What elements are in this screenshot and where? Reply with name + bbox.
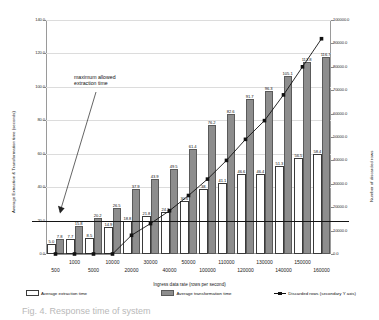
y-axis-tick-label-right: 100000.0: [333, 18, 361, 22]
y-axis-tick-label-right: 10000.0: [333, 229, 361, 233]
extract-swatch-icon: [26, 290, 39, 296]
y-axis-tick-mark-right: [331, 90, 334, 91]
x-axis-tick-label: 100000: [199, 268, 216, 273]
line-marker[interactable]: [92, 252, 96, 256]
y-axis-tick-mark-right: [331, 254, 334, 255]
line-marker[interactable]: [244, 138, 248, 142]
y-axis-tick-mark-right: [331, 67, 334, 68]
y-axis-tick-mark-right: [331, 231, 334, 232]
y-axis-tick-mark-left: [43, 254, 46, 255]
y-axis-tick-label-right: 70000.0: [333, 88, 361, 92]
y-axis-tick-label-left: 40.0: [21, 185, 45, 189]
y-axis-tick-label-right: 40000.0: [333, 158, 361, 162]
y-axis-tick-mark-right: [331, 114, 334, 115]
transform-swatch-icon: [161, 290, 174, 296]
legend-item-transformation[interactable]: Average transformation time: [161, 290, 274, 296]
y-axis-tick-mark-right: [331, 207, 334, 208]
plot-frame: 0.020.040.060.080.0100.0120.0140.00.0100…: [46, 20, 331, 254]
legend: Average extraction time Average transfor…: [26, 290, 356, 296]
legend-label-discarded-rows: Discarded rows (secondary Y axis): [288, 291, 356, 296]
y-axis-tick-label-right: 80000.0: [333, 65, 361, 69]
y-axis-tick-label-left: 120.0: [21, 51, 45, 55]
line-marker[interactable]: [225, 159, 229, 163]
x-axis-tick-label: 500: [51, 268, 59, 273]
x-axis-tick-label: 50000: [182, 260, 196, 265]
x-axis-tick-label: 160000: [313, 268, 330, 273]
annotation-max-extraction-time: maximum allowed extraction time: [74, 74, 116, 87]
y-axis-tick-label-left: 140.0: [21, 18, 45, 22]
x-axis-tick-label: 1000: [69, 260, 80, 265]
x-axis-tick-label: 120000: [237, 268, 254, 273]
y-axis-title-right: Number of discarded rows: [370, 151, 374, 202]
y-axis-tick-mark-right: [331, 160, 334, 161]
y-axis-tick-label-left: 60.0: [21, 152, 45, 156]
figure-container: Average Extraction & Transformation time…: [0, 0, 379, 320]
legend-label-extraction: Average extraction time: [41, 291, 87, 296]
y-axis-tick-mark-right: [331, 43, 334, 44]
y-axis-tick-label-left: 80.0: [21, 118, 45, 122]
x-axis-tick-label: 5000: [88, 268, 99, 273]
y-axis-tick-mark-right: [331, 137, 334, 138]
line-marker[interactable]: [282, 93, 286, 97]
y-axis-tick-mark-right: [331, 20, 334, 21]
line-marker[interactable]: [187, 194, 191, 198]
line-marker[interactable]: [206, 177, 210, 181]
x-axis-tick-label: 150000: [294, 260, 311, 265]
legend-item-extraction[interactable]: Average extraction time: [26, 290, 161, 296]
x-axis-tick-label: 110000: [218, 260, 234, 265]
line-path: [56, 39, 322, 254]
x-axis-tick-label: 30000: [144, 260, 158, 265]
line-marker[interactable]: [130, 233, 134, 237]
x-axis-title: Ingress data rate (rows per second): [0, 282, 379, 287]
y-axis-tick-label-right: 30000.0: [333, 182, 361, 186]
line-marker[interactable]: [320, 37, 324, 41]
y-axis-tick-label-right: 60000.0: [333, 112, 361, 116]
figure-caption: Fig. 4. Response time of system: [22, 306, 322, 319]
y-axis-tick-label-right: 0.0: [333, 252, 361, 256]
plot-area: 0.020.040.060.080.0100.0120.0140.00.0100…: [46, 20, 331, 254]
x-axis-tick-label: 10000: [106, 260, 120, 265]
line-marker[interactable]: [54, 252, 58, 256]
x-axis-tick-label: 130000: [256, 260, 273, 265]
y-axis-tick-label-right: 50000.0: [333, 135, 361, 139]
x-axis-tick-label: 20000: [125, 268, 139, 273]
y-axis-title-left: Average Extraction & Transformation time…: [12, 111, 16, 213]
y-axis-tick-label-right: 90000.0: [333, 41, 361, 45]
line-marker[interactable]: [149, 222, 153, 226]
discarded-rows-line-series: [46, 20, 331, 254]
line-marker[interactable]: [301, 65, 305, 69]
line-marker[interactable]: [168, 209, 172, 213]
line-marker-swatch-icon: [274, 291, 286, 295]
y-axis-tick-label-left: 0.0: [21, 252, 45, 256]
line-marker[interactable]: [73, 252, 77, 256]
line-marker[interactable]: [111, 252, 115, 256]
x-axis-tick-label: 40000: [163, 268, 177, 273]
line-marker[interactable]: [263, 119, 267, 123]
y-axis-tick-label-left: 100.0: [21, 85, 45, 89]
legend-label-transformation: Average transformation time: [176, 291, 231, 296]
y-axis-tick-label-right: 20000.0: [333, 205, 361, 209]
x-axis-tick-label: 140000: [275, 268, 292, 273]
legend-item-discarded-rows[interactable]: Discarded rows (secondary Y axis): [274, 290, 356, 296]
y-axis-tick-mark-right: [331, 184, 334, 185]
